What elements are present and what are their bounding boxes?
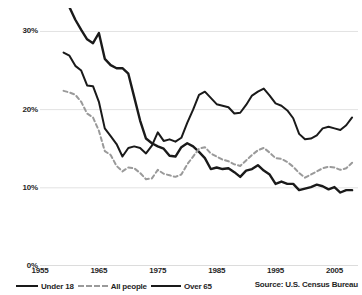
legend-swatch-solid-icon (16, 285, 38, 287)
y-axis: 0%10%20%30% (0, 8, 38, 266)
legend-item-over-65[interactable]: Over 65 (151, 282, 212, 291)
legend-label-all-people: All people (111, 282, 147, 291)
y-tick-label-10%: 10% (4, 183, 38, 192)
x-tick-label-1955: 1955 (32, 266, 49, 275)
legend-label-over-65: Over 65 (184, 282, 212, 291)
plot-svg (40, 8, 358, 266)
chart-legend: Under 18 All people Over 65 (16, 279, 212, 293)
y-tick-label-30%: 30% (4, 26, 38, 35)
legend-label-under-18: Under 18 (41, 282, 74, 291)
y-tick-label-20%: 20% (4, 105, 38, 114)
x-tick-label-1975: 1975 (149, 266, 166, 275)
series-line-over-65 (64, 8, 353, 193)
x-tick-label-1995: 1995 (267, 266, 284, 275)
legend-item-all-people[interactable]: All people (78, 282, 147, 291)
source-note: Source: U.S. Census Bureau (255, 280, 358, 289)
poverty-rate-chart: 0%10%20%30% 195519651975198519952005 Und… (0, 0, 362, 295)
series-lines (64, 8, 353, 193)
series-line-under-18 (64, 53, 353, 157)
legend-item-under-18[interactable]: Under 18 (16, 282, 74, 291)
x-tick-label-1985: 1985 (208, 266, 225, 275)
legend-swatch-solid-thin-icon (151, 285, 181, 287)
x-axis: 195519651975198519952005 (40, 266, 358, 280)
plot-area (40, 8, 358, 266)
x-tick-label-1965: 1965 (90, 266, 107, 275)
x-tick-label-2005: 2005 (326, 266, 343, 275)
legend-swatch-dashed-icon (78, 285, 108, 287)
